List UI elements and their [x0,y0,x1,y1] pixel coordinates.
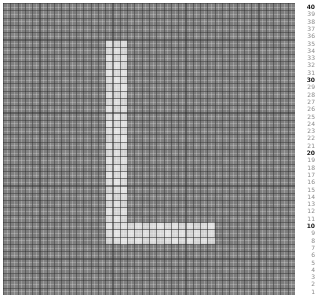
row-tick-28: 28 [307,91,315,98]
row-tick-25: 25 [307,113,315,120]
chart-root: 4039383736353433323130292827262524232221… [0,0,316,298]
heatmap-cells[interactable] [3,3,295,295]
row-tick-30: 30 [307,76,315,83]
row-tick-23: 23 [307,127,315,134]
row-tick-17: 17 [307,171,315,178]
row-tick-8: 8 [311,237,315,244]
row-tick-29: 29 [307,83,315,90]
row-tick-35: 35 [307,40,315,47]
row-tick-34: 34 [307,47,315,54]
row-tick-11: 11 [307,215,315,222]
row-tick-37: 37 [307,25,315,32]
row-tick-20: 20 [307,149,315,156]
row-tick-16: 16 [307,178,315,185]
row-tick-4: 4 [311,266,315,273]
row-tick-36: 36 [307,32,315,39]
row-tick-21: 21 [307,142,315,149]
row-tick-7: 7 [311,244,315,251]
row-tick-27: 27 [307,98,315,105]
plot-area[interactable] [3,3,295,295]
row-tick-3: 3 [311,273,315,280]
row-tick-18: 18 [307,164,315,171]
row-tick-5: 5 [311,259,315,266]
row-tick-6: 6 [311,251,315,258]
row-tick-14: 14 [307,193,315,200]
row-tick-31: 31 [307,69,315,76]
row-tick-38: 38 [307,18,315,25]
row-tick-33: 33 [307,54,315,61]
row-tick-22: 22 [307,134,315,141]
row-tick-39: 39 [307,10,315,17]
row-tick-12: 12 [307,207,315,214]
row-tick-15: 15 [307,186,315,193]
row-tick-13: 13 [307,200,315,207]
row-tick-24: 24 [307,120,315,127]
row-tick-2: 2 [311,280,315,287]
row-number-axis: 4039383736353433323130292827262524232221… [296,3,316,295]
row-tick-26: 26 [307,105,315,112]
row-tick-32: 32 [307,61,315,68]
row-tick-40: 40 [307,3,315,10]
row-tick-9: 9 [311,229,315,236]
row-tick-1: 1 [311,288,315,295]
row-tick-10: 10 [307,222,315,229]
row-tick-19: 19 [307,156,315,163]
